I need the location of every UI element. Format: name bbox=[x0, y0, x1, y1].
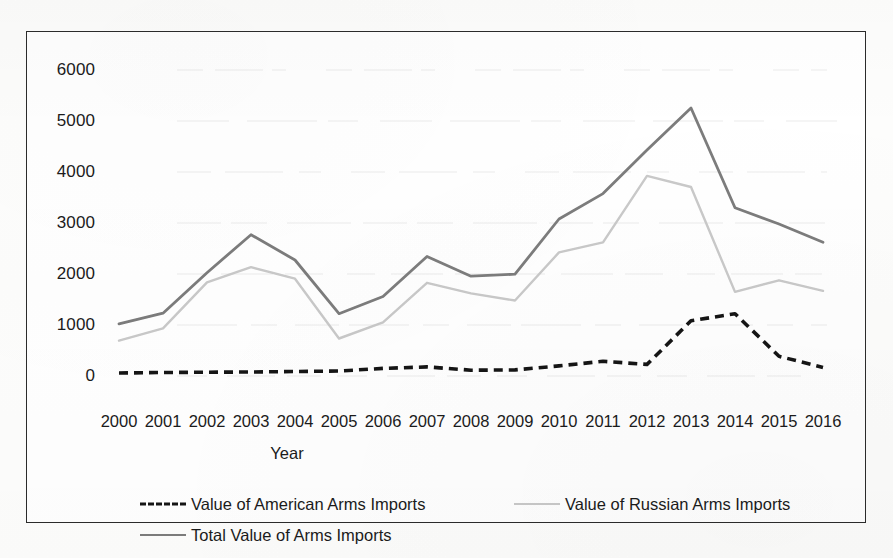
x-axis-tick-labels: 2000 2001 2002 2003 2004 2005 2006 2007 … bbox=[27, 413, 893, 437]
x-tick-2013: 2013 bbox=[673, 413, 710, 430]
y-tick-0: 0 bbox=[85, 367, 95, 384]
y-tick-2000: 2000 bbox=[57, 265, 95, 282]
x-tick-2014: 2014 bbox=[717, 413, 754, 430]
legend-label-american: Value of American Arms Imports bbox=[191, 496, 425, 513]
x-tick-2015: 2015 bbox=[761, 413, 798, 430]
legend-row-1: Value of American Arms Imports Value of … bbox=[27, 491, 893, 517]
x-tick-2003: 2003 bbox=[233, 413, 270, 430]
x-tick-2012: 2012 bbox=[629, 413, 666, 430]
legend-entry-russian[interactable]: Value of Russian Arms Imports bbox=[514, 496, 790, 513]
x-tick-2008: 2008 bbox=[453, 413, 490, 430]
legend-row-2: Total Value of Arms Imports bbox=[27, 522, 893, 548]
y-tick-4000: 4000 bbox=[57, 163, 95, 180]
scan-streak-artifacts bbox=[177, 70, 837, 376]
legend-label-russian: Value of Russian Arms Imports bbox=[565, 496, 790, 513]
legend-entry-total[interactable]: Total Value of Arms Imports bbox=[140, 527, 392, 544]
dashed-black-line-icon bbox=[140, 497, 186, 511]
dark-gray-line-icon bbox=[140, 528, 186, 542]
y-tick-1000: 1000 bbox=[57, 316, 95, 333]
x-tick-2000: 2000 bbox=[101, 413, 138, 430]
x-tick-2005: 2005 bbox=[321, 413, 358, 430]
series-line-total bbox=[119, 108, 823, 324]
x-tick-2011: 2011 bbox=[585, 413, 620, 430]
y-tick-3000: 3000 bbox=[57, 214, 95, 231]
y-tick-5000: 5000 bbox=[57, 112, 95, 129]
x-axis-title: Year bbox=[27, 444, 547, 463]
x-tick-2010: 2010 bbox=[541, 413, 578, 430]
x-tick-2001: 2001 bbox=[145, 413, 182, 430]
legend-label-total: Total Value of Arms Imports bbox=[191, 527, 392, 544]
series-line-american bbox=[119, 314, 823, 373]
chart-frame: 6000 5000 4000 3000 2000 1000 0 2000 200… bbox=[26, 31, 866, 523]
x-tick-2002: 2002 bbox=[189, 413, 226, 430]
x-tick-2006: 2006 bbox=[365, 413, 402, 430]
x-tick-2004: 2004 bbox=[277, 413, 314, 430]
x-tick-2009: 2009 bbox=[497, 413, 534, 430]
x-tick-2007: 2007 bbox=[409, 413, 446, 430]
light-gray-line-icon bbox=[514, 497, 560, 511]
x-tick-2016: 2016 bbox=[805, 413, 842, 430]
series-layer bbox=[119, 108, 823, 373]
figure-root: 6000 5000 4000 3000 2000 1000 0 2000 200… bbox=[0, 0, 893, 558]
y-tick-6000: 6000 bbox=[57, 61, 95, 78]
legend-entry-american[interactable]: Value of American Arms Imports bbox=[140, 496, 425, 513]
